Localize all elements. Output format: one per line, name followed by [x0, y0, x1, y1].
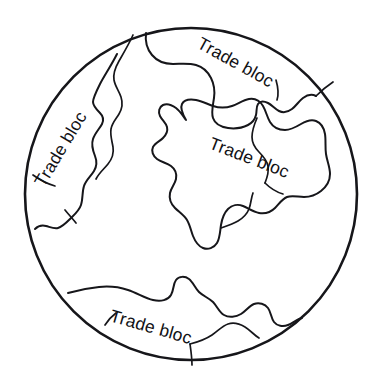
- bloc-central-inner-connector: [265, 183, 283, 194]
- globe-circle: [25, 28, 357, 360]
- bloc-northeast-inner-mark: [276, 80, 278, 100]
- bloc-west-shape: [33, 35, 133, 229]
- bloc-central-shape: [152, 99, 330, 249]
- bloc-south-coastline-north: [68, 277, 302, 326]
- bloc-central-coastline: [152, 99, 330, 249]
- bloc-west-label: Trade bloc: [30, 108, 90, 190]
- bloc-south-shape: [68, 277, 302, 365]
- globe-diagram-canvas: Trade bloc Trade bloc Trade bloc Trade b…: [0, 0, 379, 389]
- bloc-northeast-label: Trade bloc: [194, 33, 277, 91]
- bloc-west-inner-ridge: [96, 35, 133, 179]
- bloc-south-inlet-stem: [190, 344, 192, 365]
- bloc-south-inlet: [190, 323, 259, 344]
- bloc-south-label: Trade bloc: [108, 306, 194, 348]
- bloc-central-label: Trade bloc: [207, 133, 293, 182]
- bloc-northeast-shape: [146, 33, 333, 128]
- trade-bloc-globe-diagram: Trade bloc Trade bloc Trade bloc Trade b…: [0, 0, 379, 389]
